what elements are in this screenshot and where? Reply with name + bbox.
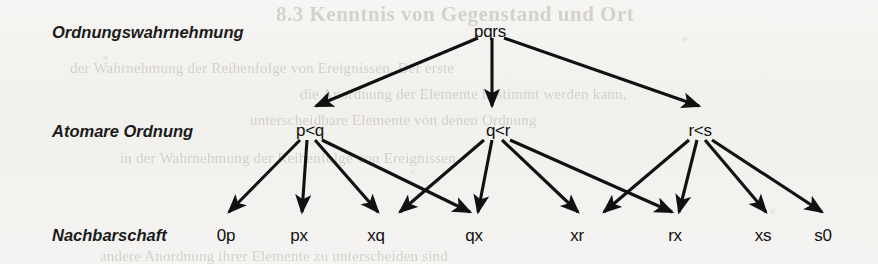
tree-node-xq: xq	[367, 226, 384, 246]
diagram-page: 8.3 Kenntnis von Gegenstand und Ort der …	[0, 0, 878, 264]
row-label-ordnungswahrnehmung: Ordnungswahrnehmung	[52, 23, 244, 42]
tree-edge-e-qr-qx	[478, 140, 492, 212]
tree-node-px: px	[290, 226, 307, 246]
tree-edge-e-rs-s0	[712, 140, 822, 212]
row-label-nachbarschaft: Nachbarschaft	[52, 226, 167, 245]
tree-edge-e-pq-px	[302, 140, 307, 212]
tree-node-qx: qx	[465, 226, 482, 246]
tree-node-pqrs: pqrs	[474, 22, 506, 42]
tree-node-rx: rx	[668, 226, 682, 246]
tree-edge-e-rs-rx	[679, 140, 697, 212]
tree-node-xs: xs	[755, 226, 771, 246]
tree-node-0p: 0p	[217, 226, 235, 246]
tree-node-s0: s0	[814, 226, 831, 246]
tree-edge-e-qr-xr	[502, 140, 578, 212]
tree-node-p-lt-q: p<q	[296, 121, 324, 141]
tree-edge-e-qr-xq	[400, 140, 484, 212]
tree-edge-e-pq-0p	[229, 140, 300, 212]
tree-node-q-lt-r: q<r	[486, 121, 510, 141]
tree-edge-e-pq-qx	[322, 140, 470, 212]
tree-node-r-lt-s: r<s	[688, 121, 711, 141]
tree-edge-e-rs-xs	[705, 140, 766, 212]
tree-edge-e-pqrs-pq	[316, 38, 478, 106]
tree-edge-e-pqrs-rs	[504, 38, 699, 106]
row-label-atomare-ordnung: Atomare Ordnung	[52, 122, 193, 141]
tree-node-xr: xr	[570, 226, 584, 246]
